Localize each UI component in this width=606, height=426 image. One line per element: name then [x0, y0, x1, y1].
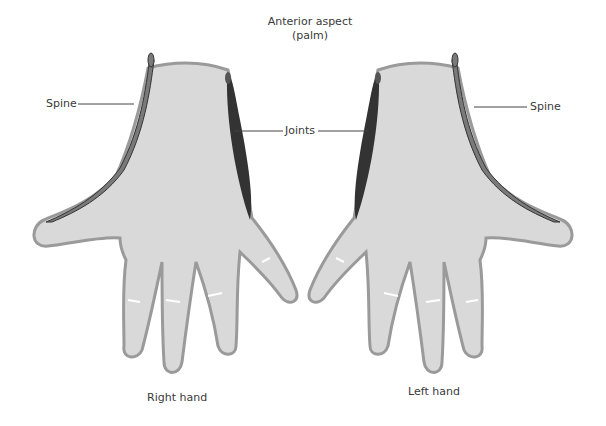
label-spine-right-hand: Spine: [46, 97, 77, 110]
label-left-hand: Left hand: [408, 385, 460, 398]
right-joint-tip: [225, 72, 231, 84]
hands-illustration: [0, 0, 606, 426]
left-spine-tip: [452, 53, 458, 67]
label-right-hand: Right hand: [147, 391, 207, 404]
label-joints: Joints: [285, 124, 315, 137]
right-spine-tip: [148, 53, 154, 67]
label-spine-left-hand: Spine: [530, 100, 561, 113]
left-joint-tip: [375, 72, 381, 84]
